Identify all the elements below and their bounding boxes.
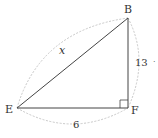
vertex-label-E: E [5, 103, 13, 116]
side-label-13: 13 [135, 57, 148, 68]
side-label-6: 6 [73, 119, 79, 130]
vertex-label-B: B [124, 3, 132, 16]
side-EB [17, 18, 128, 108]
vertex-label-F: F [131, 104, 139, 117]
right-angle-marker [120, 100, 128, 108]
triangle-diagram: B E F x 13 6 · [0, 0, 158, 138]
stray-dot: · [153, 57, 156, 66]
side-label-x: x [59, 44, 66, 57]
